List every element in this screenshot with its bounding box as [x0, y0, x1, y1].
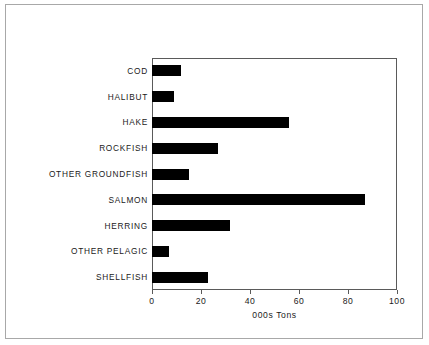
table-row: HAKE	[0, 110, 429, 136]
bar-chart-figure: COD HALIBUT HAKE ROCKFISH OTHER GROUNDFI…	[0, 0, 429, 345]
bar-rockfish	[152, 143, 218, 154]
category-label-other-pelagic: OTHER PELAGIC	[71, 246, 148, 256]
table-row: OTHER PELAGIC	[0, 239, 429, 265]
table-row: OTHER GROUNDFISH	[0, 161, 429, 187]
x-tick-label: 20	[196, 296, 207, 306]
table-row: SALMON	[0, 187, 429, 213]
bar-rows: COD HALIBUT HAKE ROCKFISH OTHER GROUNDFI…	[0, 58, 429, 290]
x-tick-mark	[397, 290, 398, 294]
category-label-halibut: HALIBUT	[108, 92, 148, 102]
bar-other-pelagic	[152, 246, 169, 257]
bar-other-groundfish	[152, 169, 189, 180]
category-label-cod: COD	[127, 66, 148, 76]
x-tick-mark	[348, 290, 349, 294]
table-row: HERRING	[0, 213, 429, 239]
table-row: ROCKFISH	[0, 135, 429, 161]
x-tick-mark	[250, 290, 251, 294]
x-tick-label: 0	[149, 296, 154, 306]
category-label-shellfish: SHELLFISH	[96, 272, 148, 282]
category-label-other-groundfish: OTHER GROUNDFISH	[49, 169, 148, 179]
table-row: SHELLFISH	[0, 264, 429, 290]
table-row: COD	[0, 58, 429, 84]
category-label-herring: HERRING	[104, 221, 148, 231]
bar-hake	[152, 117, 289, 128]
bar-herring	[152, 220, 230, 231]
x-tick-label: 100	[389, 296, 405, 306]
bar-shellfish	[152, 272, 208, 283]
bar-halibut	[152, 91, 174, 102]
table-row: HALIBUT	[0, 84, 429, 110]
x-tick-mark	[201, 290, 202, 294]
x-tick-mark	[152, 290, 153, 294]
bar-salmon	[152, 194, 365, 205]
category-label-rockfish: ROCKFISH	[99, 143, 148, 153]
x-axis-ticks: 020406080100	[0, 290, 429, 310]
x-axis-title: 000s Tons	[152, 310, 397, 320]
x-tick-mark	[299, 290, 300, 294]
x-tick-label: 80	[343, 296, 354, 306]
x-tick-label: 60	[294, 296, 305, 306]
category-label-hake: HAKE	[122, 117, 148, 127]
x-tick-label: 40	[245, 296, 256, 306]
bar-cod	[152, 65, 181, 76]
category-label-salmon: SALMON	[108, 195, 148, 205]
